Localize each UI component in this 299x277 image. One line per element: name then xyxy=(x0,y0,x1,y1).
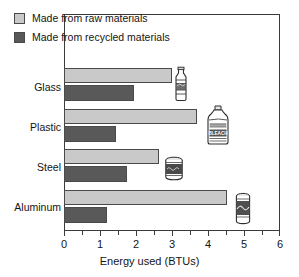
bar-aluminum-recycled xyxy=(64,207,107,223)
bar-aluminum-raw xyxy=(64,190,227,205)
bar-plastic-recycled xyxy=(64,126,116,142)
x-tick-5 xyxy=(244,231,245,236)
bars-layer xyxy=(0,0,299,277)
x-tick-3 xyxy=(172,231,173,236)
bar-chart: Made from raw materials Made from recycl… xyxy=(0,0,299,277)
bar-glass-recycled xyxy=(64,85,134,101)
x-tick-label-0: 0 xyxy=(61,238,67,250)
bar-steel-raw xyxy=(64,149,159,164)
x-tick-4 xyxy=(208,231,209,236)
x-axis-title: Energy used (BTUs) xyxy=(0,255,299,267)
steel-can-icon xyxy=(163,156,185,182)
x-tick-label-5: 5 xyxy=(241,238,247,250)
x-tick-0 xyxy=(64,231,65,236)
bar-steel-recycled xyxy=(64,166,127,182)
x-tick-minor-2-5 xyxy=(154,231,155,235)
bar-glass-raw xyxy=(64,68,172,83)
x-tick-label-3: 3 xyxy=(169,238,175,250)
x-tick-minor-1-5 xyxy=(118,231,119,235)
x-tick-minor-5-5 xyxy=(262,231,263,235)
x-tick-label-6: 6 xyxy=(277,238,283,250)
x-tick-label-4: 4 xyxy=(205,238,211,250)
x-tick-2 xyxy=(136,231,137,236)
x-tick-1 xyxy=(100,231,101,236)
bar-plastic-raw xyxy=(64,109,197,124)
x-tick-label-2: 2 xyxy=(133,238,139,250)
glass-bottle-icon xyxy=(170,66,192,102)
bleach-jug-label: BLEACH xyxy=(208,131,228,136)
x-tick-minor-4-5 xyxy=(226,231,227,235)
x-tick-minor-3-5 xyxy=(190,231,191,235)
aluminum-can-icon xyxy=(233,192,253,226)
x-tick-minor-0-5 xyxy=(82,231,83,235)
x-tick-label-1: 1 xyxy=(97,238,103,250)
bleach-jug-icon: BLEACH xyxy=(203,104,233,148)
x-tick-6 xyxy=(279,231,280,236)
